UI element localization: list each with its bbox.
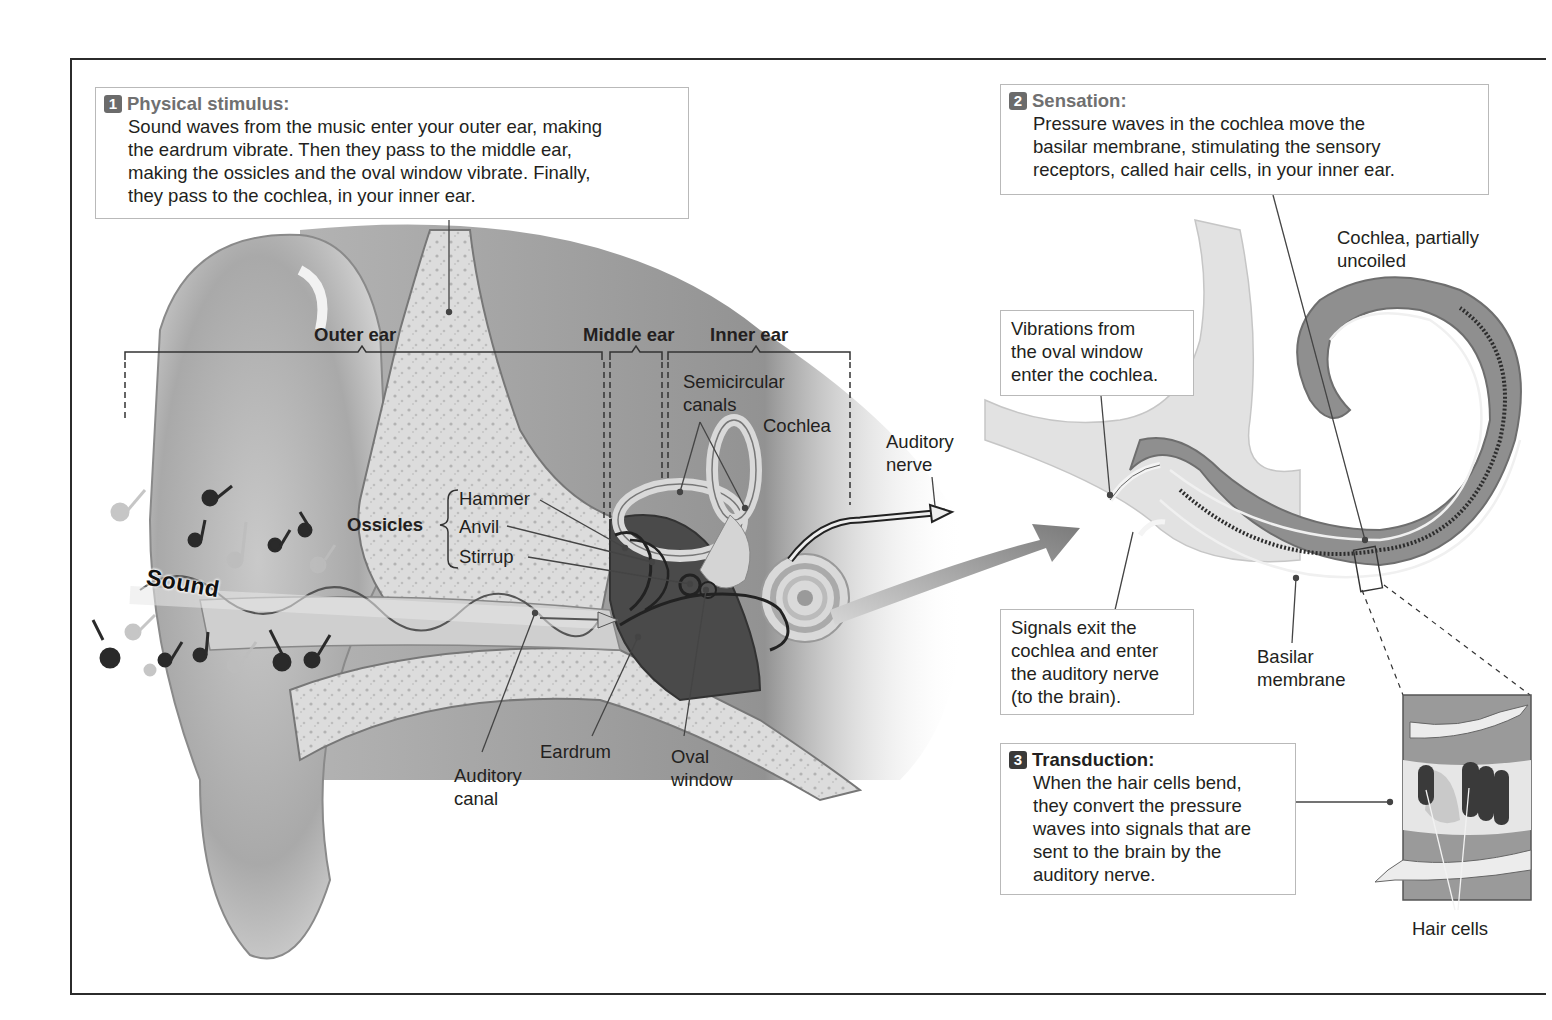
middle-ear-label: Middle ear (583, 323, 675, 346)
step-1-badge: 1 (104, 95, 122, 113)
text-line: Sound waves from the music enter your ou… (128, 115, 680, 138)
oval-window-label: Oval window (671, 745, 733, 791)
step-3-box: 3 Transduction: When the hair cells bend… (1000, 743, 1296, 895)
auditory-canal-label: Auditory canal (454, 764, 522, 810)
step-1-heading: 1 Physical stimulus: (104, 92, 680, 115)
text-line: canals (683, 393, 785, 416)
text-line: waves into signals that are (1033, 817, 1287, 840)
step-3-title: Transduction: (1032, 748, 1154, 771)
text-line: auditory nerve. (1033, 863, 1287, 886)
text-line: uncoiled (1337, 249, 1479, 272)
auditory-nerve-label: Auditory nerve (886, 430, 954, 476)
text-line: Oval (671, 745, 733, 768)
text-line: they convert the pressure (1033, 794, 1287, 817)
text-line: Semicircular (683, 370, 785, 393)
eardrum-label: Eardrum (540, 740, 611, 763)
text-line: making the ossicles and the oval window … (128, 161, 680, 184)
step-1-box: 1 Physical stimulus: Sound waves from th… (95, 87, 689, 219)
basilar-membrane-label: Basilar membrane (1257, 645, 1345, 691)
step-2-title: Sensation: (1032, 89, 1127, 112)
text-line: nerve (886, 453, 954, 476)
cochlea-label: Cochlea (763, 414, 831, 437)
anvil-label: Anvil (459, 515, 499, 538)
step-3-text: When the hair cells bend, they convert t… (1009, 771, 1287, 886)
text-line: Basilar (1257, 645, 1345, 668)
text-line: canal (454, 787, 522, 810)
step-2-box: 2 Sensation: Pressure waves in the cochl… (1000, 84, 1489, 195)
text-line: cochlea and enter (1011, 639, 1183, 662)
inner-ear-label: Inner ear (710, 323, 788, 346)
cochlea-uncoiled-label: Cochlea, partially uncoiled (1337, 226, 1479, 272)
text-line: Auditory (886, 430, 954, 453)
text-line: basilar membrane, stimulating the sensor… (1033, 135, 1480, 158)
step-2-heading: 2 Sensation: (1009, 89, 1480, 112)
text-line: they pass to the cochlea, in your inner … (128, 184, 680, 207)
outer-ear-label: Outer ear (314, 323, 396, 346)
step-3-badge: 3 (1009, 751, 1027, 769)
stirrup-label: Stirrup (459, 545, 514, 568)
hair-cells-label: Hair cells (1412, 917, 1488, 940)
step-1-text: Sound waves from the music enter your ou… (104, 115, 680, 207)
text-line: Pressure waves in the cochlea move the (1033, 112, 1480, 135)
text-line: the oval window (1011, 340, 1183, 363)
step-3-heading: 3 Transduction: (1009, 748, 1287, 771)
text-line: (to the brain). (1011, 685, 1183, 708)
text-line: Vibrations from (1011, 317, 1183, 340)
hammer-label: Hammer (459, 487, 530, 510)
text-line: window (671, 768, 733, 791)
step-1-title: Physical stimulus: (127, 92, 289, 115)
text-line: sent to the brain by the (1033, 840, 1287, 863)
signals-callout: Signals exit the cochlea and enter the a… (1000, 609, 1194, 715)
text-line: Auditory (454, 764, 522, 787)
semicircular-canals-label: Semicircular canals (683, 370, 785, 416)
text-line: membrane (1257, 668, 1345, 691)
ossicles-label: Ossicles (347, 513, 423, 536)
step-2-badge: 2 (1009, 92, 1027, 110)
text-line: Signals exit the (1011, 616, 1183, 639)
text-line: Cochlea, partially (1337, 226, 1479, 249)
step-2-text: Pressure waves in the cochlea move the b… (1009, 112, 1480, 181)
text-line: receptors, called hair cells, in your in… (1033, 158, 1480, 181)
text-line: enter the cochlea. (1011, 363, 1183, 386)
text-line: When the hair cells bend, (1033, 771, 1287, 794)
vibrations-callout: Vibrations from the oval window enter th… (1000, 310, 1194, 396)
text-line: the auditory nerve (1011, 662, 1183, 685)
text-line: the eardrum vibrate. Then they pass to t… (128, 138, 680, 161)
